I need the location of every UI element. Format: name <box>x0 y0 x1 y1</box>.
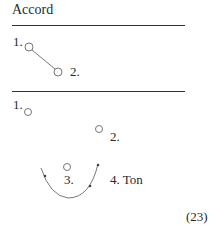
beat-circle-3 <box>64 164 71 171</box>
beat-circle-1 <box>25 43 33 51</box>
diagram-graphics <box>0 0 214 226</box>
beat-circle-1 <box>25 109 32 116</box>
connector-line <box>32 50 55 69</box>
beat-circle-2 <box>54 68 62 76</box>
beat-circle-2 <box>96 126 103 133</box>
